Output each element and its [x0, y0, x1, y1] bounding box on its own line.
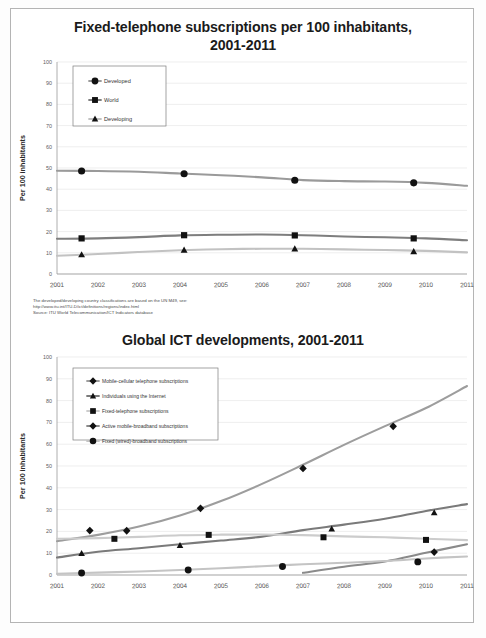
page-frame: Fixed-telephone subscriptions per 100 in…: [10, 8, 474, 623]
marker-2-2: [321, 534, 327, 540]
series-line-1: [57, 235, 467, 241]
series-line-0: [57, 171, 467, 186]
legend-marker-2: [90, 408, 96, 414]
marker-1-1: [181, 232, 187, 238]
ytick-label-10: 10: [46, 550, 52, 556]
chart-two-svg: 0102030405060708090100200120022003200420…: [11, 349, 475, 601]
ytick-label-70: 70: [46, 419, 52, 425]
legend-label-2: Developing: [104, 116, 132, 122]
xtick-label-2010: 2010: [419, 582, 434, 590]
ytick-label-0: 0: [49, 572, 52, 578]
xtick-label-2005: 2005: [214, 281, 229, 289]
chart-two-title: Global ICT developments, 2001-2011: [11, 327, 475, 349]
marker-4-3: [414, 558, 421, 565]
ytick-label-100: 100: [43, 59, 52, 65]
series-line-4: [57, 556, 467, 573]
legend-label-0: Developed: [104, 78, 131, 84]
xtick-label-2010: 2010: [419, 281, 434, 289]
marker-2-3: [423, 537, 429, 543]
legend-label-2: Fixed-telephone subscriptions: [102, 408, 169, 414]
marker-1-2: [292, 232, 298, 238]
legend-label-1: World: [104, 97, 119, 103]
chart-global-ict: Global ICT developments, 2001-2011 01020…: [11, 327, 475, 623]
legend-marker-0: [92, 78, 99, 85]
marker-4-1: [185, 567, 192, 574]
xtick-label-2008: 2008: [337, 582, 352, 590]
xtick-label-2011: 2011: [460, 281, 474, 288]
ytick-label-90: 90: [46, 80, 52, 86]
xtick-label-2008: 2008: [337, 281, 352, 289]
marker-0-1: [181, 170, 188, 177]
marker-4-0: [78, 570, 85, 577]
legend-marker-1: [92, 97, 98, 103]
xtick-label-2007: 2007: [296, 582, 311, 590]
ytick-label-20: 20: [46, 229, 52, 235]
marker-0-2: [197, 504, 205, 512]
xtick-label-2007: 2007: [296, 281, 311, 289]
ytick-label-80: 80: [46, 398, 52, 404]
xtick-label-2003: 2003: [132, 281, 147, 289]
marker-3-0: [430, 548, 438, 556]
chart-fixed-telephone: Fixed-telephone subscriptions per 100 in…: [11, 9, 475, 324]
chart-one-title-line2: 2001-2011: [11, 36, 475, 54]
chart-one-svg: 0102030405060708090100200120022003200420…: [11, 54, 475, 299]
legend-marker-4: [90, 438, 97, 445]
ytick-label-0: 0: [49, 271, 52, 277]
legend-label-3: Active mobile-broadband subscriptions: [102, 423, 188, 429]
xtick-label-2002: 2002: [91, 582, 106, 590]
marker-2-0: [111, 536, 117, 542]
chart-one-title-line1: Fixed-telephone subscriptions per 100 in…: [74, 19, 412, 35]
xtick-label-2001: 2001: [50, 582, 65, 590]
legend-label-0: Mobile-cellular telephone subscriptions: [102, 378, 189, 384]
marker-1-3: [411, 235, 417, 241]
ytick-label-100: 100: [43, 354, 52, 360]
xtick-label-2006: 2006: [255, 582, 270, 590]
xtick-label-2003: 2003: [132, 582, 147, 590]
xtick-label-2005: 2005: [214, 582, 229, 590]
xtick-label-2001: 2001: [50, 281, 65, 289]
chart-one-footnote: The developed/developing country classif…: [33, 298, 187, 316]
chart-one-title: Fixed-telephone subscriptions per 100 in…: [11, 9, 475, 54]
xtick-label-2011: 2011: [460, 582, 474, 589]
chart-two-plot-area: 0102030405060708090100200120022003200420…: [11, 349, 475, 601]
marker-2-1: [206, 532, 212, 538]
ytick-label-60: 60: [46, 441, 52, 447]
ytick-label-80: 80: [46, 101, 52, 107]
series-line-2: [57, 249, 467, 256]
xtick-label-2006: 2006: [255, 281, 270, 289]
xtick-label-2004: 2004: [173, 281, 188, 289]
ytick-label-30: 30: [46, 207, 52, 213]
footnote-one-line3: Source: ITU World Telecommunication/ICT …: [33, 310, 187, 316]
marker-0-2: [291, 177, 298, 184]
marker-0-0: [86, 527, 94, 535]
xtick-label-2004: 2004: [173, 582, 188, 590]
legend-label-1: Individuals using the Internet: [102, 393, 166, 399]
ytick-label-40: 40: [46, 186, 52, 192]
xtick-label-2009: 2009: [378, 281, 393, 289]
marker-1-0: [79, 235, 85, 241]
ytick-label-20: 20: [46, 528, 52, 534]
xtick-label-2002: 2002: [91, 281, 106, 289]
ytick-label-40: 40: [46, 485, 52, 491]
ytick-label-70: 70: [46, 123, 52, 129]
ytick-label-50: 50: [46, 165, 52, 171]
y-axis-title: Per 100 inhabitants: [18, 135, 27, 201]
y-axis-title: Per 100 inhabitants: [18, 433, 27, 499]
ytick-label-10: 10: [46, 250, 52, 256]
ytick-label-60: 60: [46, 144, 52, 150]
ytick-label-30: 30: [46, 507, 52, 513]
ytick-label-50: 50: [46, 463, 52, 469]
marker-0-0: [78, 167, 85, 174]
marker-4-2: [279, 563, 286, 570]
ytick-label-90: 90: [46, 376, 52, 382]
marker-0-3: [410, 179, 417, 186]
document-page: Fixed-telephone subscriptions per 100 in…: [0, 0, 486, 638]
xtick-label-2009: 2009: [378, 582, 393, 590]
legend-label-4: Fixed (wired)-broadband subscriptions: [102, 438, 188, 444]
chart-one-plot-area: 0102030405060708090100200120022003200420…: [11, 54, 475, 299]
